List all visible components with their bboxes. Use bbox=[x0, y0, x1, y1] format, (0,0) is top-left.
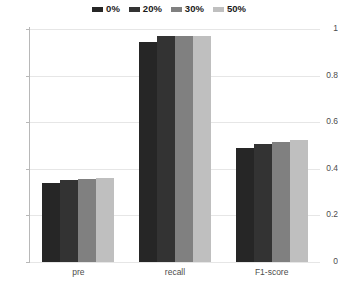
bar-recall-0pct bbox=[139, 42, 157, 262]
bar-pre-50pct bbox=[96, 178, 114, 262]
bar-chart: 0%20%30%50% 00.20.40.60.81 prerecallF1-s… bbox=[0, 0, 338, 288]
plot-area: 00.20.40.60.81 prerecallF1-score bbox=[0, 0, 338, 288]
x-axis-category-label: recall bbox=[127, 267, 224, 277]
bar-f1-score-20pct bbox=[254, 144, 272, 262]
bars-group bbox=[0, 0, 338, 288]
bar-pre-20pct bbox=[60, 180, 78, 262]
bar-pre-0pct bbox=[42, 183, 60, 262]
bar-f1-score-0pct bbox=[236, 148, 254, 262]
x-axis-category-label: pre bbox=[30, 267, 127, 277]
x-axis-category-label: F1-score bbox=[223, 267, 320, 277]
bar-recall-30pct bbox=[175, 36, 193, 262]
bar-f1-score-30pct bbox=[272, 142, 290, 262]
bar-recall-20pct bbox=[157, 36, 175, 262]
bar-f1-score-50pct bbox=[290, 140, 308, 262]
bar-recall-50pct bbox=[193, 36, 211, 262]
bar-pre-30pct bbox=[78, 179, 96, 262]
